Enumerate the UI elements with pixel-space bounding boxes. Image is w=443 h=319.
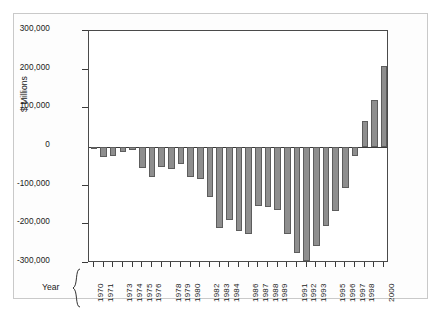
x-tick-label: 1991 xyxy=(300,283,309,302)
x-tick-mark xyxy=(170,262,171,267)
year-brace-icon xyxy=(72,268,81,308)
y-tick-label: -200,000 xyxy=(0,217,50,226)
chart-figure: $ Millions 300,000200,000100,0000-100,00… xyxy=(0,0,443,319)
x-tick-mark xyxy=(277,262,278,267)
x-tick-mark xyxy=(335,262,336,267)
bar xyxy=(274,147,281,210)
x-tick-mark xyxy=(190,262,191,267)
y-tick-label: 200,000 xyxy=(0,63,50,72)
x-tick-mark xyxy=(306,262,307,267)
bar xyxy=(226,147,233,220)
x-tick-mark xyxy=(93,262,94,267)
y-tick-label: 100,000 xyxy=(0,101,50,110)
bar xyxy=(332,147,339,211)
x-tick-label: 1984 xyxy=(232,283,241,302)
x-tick-mark xyxy=(132,262,133,267)
bar xyxy=(323,147,330,226)
x-tick-label: 1979 xyxy=(183,283,192,302)
y-tick-label: -100,000 xyxy=(0,179,50,188)
x-tick-mark xyxy=(151,262,152,267)
bar xyxy=(303,147,310,261)
x-tick-mark xyxy=(286,262,287,267)
bar xyxy=(149,147,156,177)
bar xyxy=(158,147,165,167)
x-tick-label: 1987 xyxy=(261,283,270,302)
x-tick-mark xyxy=(344,262,345,267)
x-tick-mark xyxy=(161,262,162,267)
x-tick-label: 1974 xyxy=(135,283,144,302)
x-tick-label: 1980 xyxy=(193,283,202,302)
bar xyxy=(342,147,349,188)
bar xyxy=(197,147,204,179)
x-tick-mark xyxy=(199,262,200,267)
y-tick-label: -300,000 xyxy=(0,256,50,265)
bar xyxy=(178,147,185,164)
bar xyxy=(100,147,107,157)
x-tick-mark xyxy=(219,262,220,267)
bar xyxy=(139,147,146,168)
bar xyxy=(284,147,291,234)
bar xyxy=(236,147,243,231)
x-tick-mark xyxy=(364,262,365,267)
x-tick-mark xyxy=(257,262,258,267)
x-tick-mark xyxy=(103,262,104,267)
x-tick-label: 1983 xyxy=(222,283,231,302)
bar xyxy=(129,147,136,150)
bar xyxy=(216,147,223,228)
bar xyxy=(313,147,320,246)
x-tick-mark xyxy=(383,262,384,267)
bar xyxy=(120,147,127,152)
y-tick-label: 300,000 xyxy=(0,24,50,33)
x-tick-label: 1978 xyxy=(174,283,183,302)
x-tick-label: 1971 xyxy=(106,283,115,302)
bar xyxy=(265,147,272,207)
x-tick-label: 1982 xyxy=(212,283,221,302)
x-tick-label: 1986 xyxy=(251,283,260,302)
bar xyxy=(110,147,117,156)
x-tick-label: 2000 xyxy=(387,283,396,302)
bar xyxy=(294,147,301,253)
x-tick-mark xyxy=(296,262,297,267)
bar xyxy=(362,121,369,147)
x-tick-label: 1998 xyxy=(367,283,376,302)
bar xyxy=(352,147,359,156)
bar xyxy=(381,66,388,147)
x-tick-label: 1993 xyxy=(319,283,328,302)
x-tick-mark xyxy=(267,262,268,267)
x-tick-mark xyxy=(180,262,181,267)
x-axis-label: Year xyxy=(42,282,59,292)
bar xyxy=(371,100,378,147)
bar-series xyxy=(89,31,387,261)
x-tick-label: 1970 xyxy=(96,283,105,302)
x-tick-mark xyxy=(228,262,229,267)
x-tick-mark xyxy=(122,262,123,267)
x-tick-label: 1989 xyxy=(280,283,289,302)
bar xyxy=(245,147,252,234)
x-tick-label: 1997 xyxy=(358,283,367,302)
plot-area xyxy=(88,30,388,262)
x-tick-mark xyxy=(112,262,113,267)
x-tick-label: 1996 xyxy=(348,283,357,302)
x-tick-label: 1988 xyxy=(271,283,280,302)
x-tick-label: 1976 xyxy=(154,283,163,302)
bar xyxy=(255,147,262,206)
bar xyxy=(207,147,214,197)
y-tick-label: 0 xyxy=(0,140,50,149)
x-tick-mark xyxy=(354,262,355,267)
x-tick-label: 1995 xyxy=(338,283,347,302)
y-tick-mark xyxy=(82,262,88,263)
x-tick-mark xyxy=(315,262,316,267)
x-tick-mark xyxy=(141,262,142,267)
x-tick-label: 1973 xyxy=(125,283,134,302)
x-tick-mark xyxy=(209,262,210,267)
bar xyxy=(187,147,194,177)
x-tick-label: 1992 xyxy=(309,283,318,302)
x-tick-mark xyxy=(373,262,374,267)
x-tick-mark xyxy=(248,262,249,267)
bar xyxy=(91,147,98,149)
bar xyxy=(168,147,175,169)
x-tick-mark xyxy=(325,262,326,267)
x-tick-mark xyxy=(238,262,239,267)
x-tick-label: 1975 xyxy=(145,283,154,302)
